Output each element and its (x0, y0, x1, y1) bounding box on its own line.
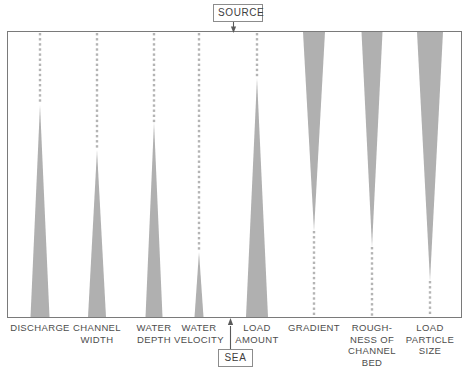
dot-water-depth (153, 69, 155, 71)
dot-water-depth (153, 99, 155, 101)
dot-water-depth (153, 59, 155, 61)
dot-water-velocity (198, 48, 200, 50)
dot-gradient (313, 251, 315, 253)
dot-gradient (313, 236, 315, 238)
dot-water-depth (153, 110, 155, 112)
dot-water-depth (153, 43, 155, 45)
dot-discharge (39, 64, 41, 66)
dot-roughness-of-channel-bed (371, 247, 373, 249)
dot-roughness-of-channel-bed (371, 288, 373, 290)
dot-water-velocity (198, 222, 200, 224)
dot-water-velocity (198, 33, 200, 35)
dot-channel-width (96, 53, 98, 55)
dot-water-velocity (198, 89, 200, 91)
dot-gradient (313, 287, 315, 289)
dot-water-depth (153, 84, 155, 86)
dot-water-velocity (198, 110, 200, 112)
dot-channel-width (96, 140, 98, 142)
dot-water-velocity (198, 176, 200, 178)
dot-channel-width (96, 64, 98, 66)
dot-load-amount (256, 43, 258, 45)
dot-water-depth (153, 33, 155, 35)
dot-channel-width (96, 74, 98, 76)
dot-water-velocity (198, 79, 200, 81)
dot-load-particle-size (429, 286, 431, 288)
dot-channel-width (96, 110, 98, 112)
dot-water-depth (153, 53, 155, 55)
dot-load-amount (256, 59, 258, 61)
diagram-canvas: SOURCE SEA DISCHARGECHANNEL WIDTHWATER D… (0, 0, 468, 373)
dot-load-amount (256, 53, 258, 55)
dot-discharge (39, 89, 41, 91)
dot-roughness-of-channel-bed (371, 262, 373, 264)
dot-discharge (39, 59, 41, 61)
dot-channel-width (96, 43, 98, 45)
dot-gradient (313, 302, 315, 304)
dot-discharge (39, 38, 41, 40)
dot-water-velocity (198, 161, 200, 163)
dot-discharge (39, 99, 41, 101)
column-label-gradient: GRADIENT (282, 322, 346, 334)
dot-water-velocity (198, 115, 200, 117)
dot-water-depth (153, 104, 155, 106)
dot-water-velocity (198, 201, 200, 203)
dot-discharge (39, 43, 41, 45)
dot-roughness-of-channel-bed (371, 303, 373, 305)
dot-water-velocity (198, 181, 200, 183)
dot-water-velocity (198, 145, 200, 147)
dot-gradient (313, 308, 315, 310)
dot-water-depth (153, 94, 155, 96)
dot-channel-width (96, 48, 98, 50)
dot-discharge (39, 74, 41, 76)
dot-channel-width (96, 99, 98, 101)
dot-water-velocity (198, 217, 200, 219)
dot-channel-width (96, 94, 98, 96)
dot-channel-width (96, 79, 98, 81)
dot-water-depth (153, 38, 155, 40)
dot-channel-width (96, 135, 98, 137)
dot-load-amount (256, 69, 258, 71)
dot-water-velocity (198, 247, 200, 249)
dot-water-depth (153, 120, 155, 122)
dot-water-depth (153, 89, 155, 91)
dot-water-velocity (198, 150, 200, 152)
dot-water-velocity (198, 166, 200, 168)
dot-water-velocity (198, 120, 200, 122)
dot-channel-width (96, 38, 98, 40)
dot-water-velocity (198, 64, 200, 66)
dot-load-particle-size (429, 301, 431, 303)
dot-load-amount (256, 38, 258, 40)
dot-gradient (313, 231, 315, 233)
dot-roughness-of-channel-bed (371, 283, 373, 285)
dot-roughness-of-channel-bed (371, 313, 373, 315)
dot-water-velocity (198, 99, 200, 101)
dot-roughness-of-channel-bed (371, 267, 373, 269)
dot-roughness-of-channel-bed (371, 273, 373, 275)
diagram-border (8, 32, 462, 318)
dot-water-depth (153, 115, 155, 117)
dot-gradient (313, 241, 315, 243)
dot-water-velocity (198, 232, 200, 234)
dot-load-amount (256, 48, 258, 50)
dot-water-velocity (198, 135, 200, 137)
dot-load-particle-size (429, 312, 431, 314)
dot-water-velocity (198, 59, 200, 61)
dot-water-velocity (198, 155, 200, 157)
dot-water-depth (153, 48, 155, 50)
dot-load-particle-size (429, 296, 431, 298)
dot-roughness-of-channel-bed (371, 278, 373, 280)
column-label-load-particle-size: LOAD PARTICLE SIZE (398, 322, 462, 357)
column-label-roughness-of-channel-bed: ROUGH- NESS OF CHANNEL BED (340, 322, 404, 368)
dot-water-velocity (198, 206, 200, 208)
column-label-channel-width: CHANNEL WIDTH (65, 322, 129, 345)
dot-water-velocity (198, 38, 200, 40)
dot-water-velocity (198, 196, 200, 198)
dot-load-particle-size (429, 291, 431, 293)
column-label-water-velocity: WATER VELOCITY (167, 322, 231, 345)
dot-channel-width (96, 125, 98, 127)
dot-load-particle-size (429, 307, 431, 309)
dot-discharge (39, 84, 41, 86)
dot-roughness-of-channel-bed (371, 308, 373, 310)
dot-water-depth (153, 64, 155, 66)
dot-load-amount (256, 74, 258, 76)
